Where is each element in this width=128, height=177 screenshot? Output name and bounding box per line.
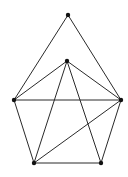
edge-center-right [67, 61, 121, 100]
node-left [12, 98, 16, 102]
graph-diagram [0, 0, 128, 177]
edge-center-left [14, 61, 67, 100]
node-right [119, 98, 123, 102]
edges-layer [14, 15, 121, 163]
node-center [65, 59, 69, 63]
node-bottom-left [32, 161, 36, 165]
edge-left-bottom-left [14, 100, 34, 163]
edge-right-bottom-left [34, 100, 121, 163]
edge-center-bottom-left [34, 61, 67, 163]
edge-center-bottom-right [67, 61, 101, 163]
edge-top-left [14, 15, 68, 100]
node-top [66, 13, 70, 17]
edge-right-bottom-right [101, 100, 121, 163]
node-bottom-right [99, 161, 103, 165]
